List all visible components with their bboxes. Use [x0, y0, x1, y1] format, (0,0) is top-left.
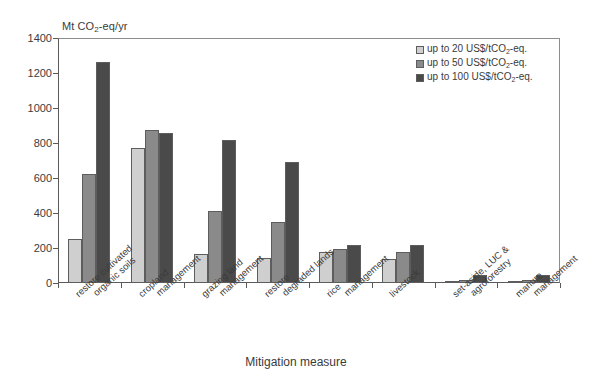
bar	[445, 281, 459, 283]
y-axis-tick-label: 800	[0, 138, 52, 148]
y-axis-tick-label: 1000	[0, 103, 52, 113]
y-axis-tick-mark	[53, 108, 58, 109]
legend-label: up to 100 US$/tCO2-eq.	[427, 70, 533, 87]
legend-swatch	[416, 74, 424, 82]
bar-chart: Mt CO2-eq/yr 0200400600800100012001400 r…	[0, 0, 592, 381]
x-axis-tick-mark	[309, 283, 310, 288]
y-axis-tick-mark	[53, 248, 58, 249]
x-axis-tick-mark	[184, 283, 185, 288]
legend-label-post: -eq.	[510, 57, 527, 68]
y-axis-title: Mt CO2-eq/yr	[62, 20, 128, 34]
legend-item: up to 100 US$/tCO2-eq.	[416, 71, 533, 85]
legend-swatch	[416, 46, 424, 54]
y-axis-tick-label: 1200	[0, 68, 52, 78]
x-axis-tick-mark	[435, 283, 436, 288]
bar	[96, 62, 110, 283]
x-axis-tick-mark	[121, 283, 122, 288]
legend-label-post: -eq.	[510, 43, 527, 54]
legend-label-pre: up to 20 US$/tCO	[427, 43, 506, 54]
legend-label-pre: up to 100 US$/tCO	[427, 71, 512, 82]
y-axis-tick-label: 600	[0, 173, 52, 183]
bar	[68, 239, 82, 283]
x-axis-tick-mark	[58, 283, 59, 288]
legend-label-pre: up to 50 US$/tCO	[427, 57, 506, 68]
y-axis-tick-mark	[53, 38, 58, 39]
x-axis-title: Mitigation measure	[0, 355, 592, 369]
bar	[508, 281, 522, 283]
y-axis-tick-mark	[53, 143, 58, 144]
y-axis-tick-mark	[53, 213, 58, 214]
x-axis-tick-mark	[497, 283, 498, 288]
y-axis-title-post: -eq/yr	[99, 20, 128, 32]
y-axis-tick-label: 0	[0, 278, 52, 288]
x-axis-tick-mark	[560, 283, 561, 288]
x-axis-tick-mark	[246, 283, 247, 288]
legend: up to 20 US$/tCO2-eq.up to 50 US$/tCO2-e…	[416, 43, 533, 85]
x-axis-tick-mark	[372, 283, 373, 288]
legend-label-post: -eq.	[515, 71, 532, 82]
y-axis-title-pre: Mt CO	[62, 20, 94, 32]
y-axis-tick-mark	[53, 73, 58, 74]
y-axis-tick-mark	[53, 178, 58, 179]
y-axis-tick-label: 200	[0, 243, 52, 253]
y-axis-tick-label: 400	[0, 208, 52, 218]
legend-swatch	[416, 60, 424, 68]
bar	[82, 174, 96, 283]
bar	[145, 130, 159, 283]
y-axis-tick-label: 1400	[0, 33, 52, 43]
